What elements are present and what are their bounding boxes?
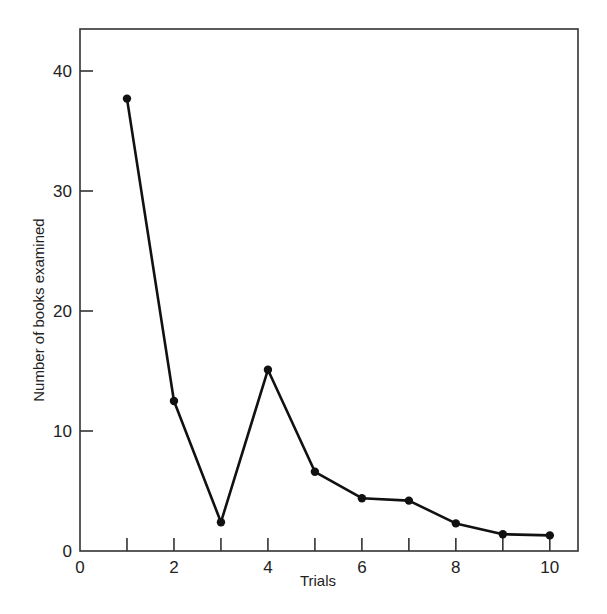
x-tick-label: 0 bbox=[75, 558, 84, 577]
x-axis-title: Trials bbox=[300, 572, 336, 589]
y-tick-label: 20 bbox=[53, 302, 72, 321]
y-axis-ticks: 010203040 bbox=[53, 62, 93, 561]
data-point bbox=[452, 519, 460, 527]
data-point bbox=[170, 397, 178, 405]
x-tick-label: 8 bbox=[451, 558, 460, 577]
data-markers bbox=[123, 94, 554, 539]
data-point bbox=[123, 94, 131, 102]
x-tick-label: 10 bbox=[540, 558, 559, 577]
data-point bbox=[217, 518, 225, 526]
y-tick-label: 30 bbox=[53, 182, 72, 201]
data-line bbox=[127, 99, 550, 536]
data-point bbox=[499, 530, 507, 538]
data-point bbox=[358, 494, 366, 502]
x-tick-label: 4 bbox=[263, 558, 272, 577]
data-point bbox=[546, 531, 554, 539]
line-chart: 010203040 0246810 Trials Number of books… bbox=[0, 0, 607, 614]
y-tick-label: 10 bbox=[53, 422, 72, 441]
plot-frame bbox=[80, 29, 578, 551]
y-axis-title: Number of books examined bbox=[30, 218, 47, 401]
y-tick-label: 0 bbox=[63, 542, 72, 561]
y-tick-label: 40 bbox=[53, 62, 72, 81]
data-point bbox=[405, 496, 413, 504]
data-point bbox=[264, 366, 272, 374]
data-point bbox=[311, 468, 319, 476]
x-tick-label: 6 bbox=[357, 558, 366, 577]
x-tick-label: 2 bbox=[169, 558, 178, 577]
